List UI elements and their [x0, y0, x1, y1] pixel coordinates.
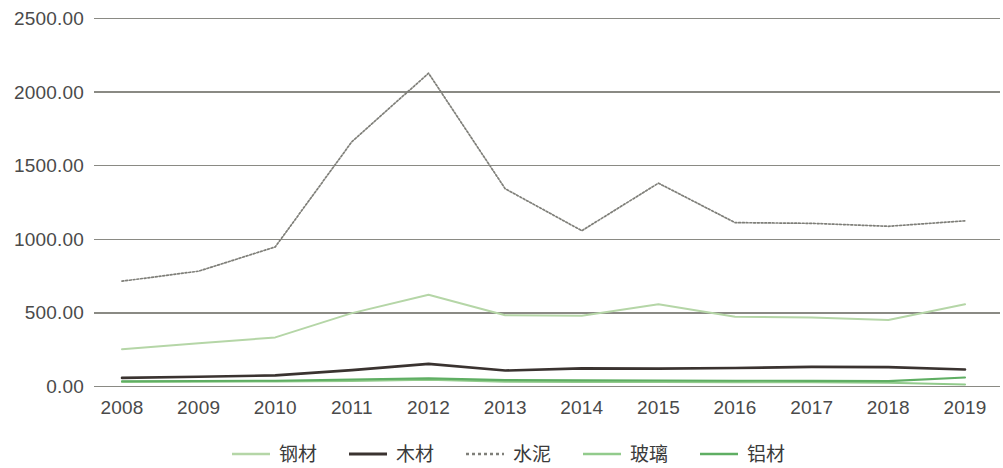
line-chart: 0.00500.001000.001500.002000.002500.00 2… [0, 0, 1003, 468]
x-tick-label: 2014 [560, 397, 603, 418]
y-tick-label: 2500.00 [14, 8, 84, 29]
series-line [122, 73, 965, 281]
legend-item[interactable]: 钢材 [232, 443, 317, 465]
y-tick-label: 1000.00 [14, 229, 84, 250]
x-tick-label: 2012 [407, 397, 450, 418]
y-tick-label: 2000.00 [14, 82, 84, 103]
y-tick-label: 500.00 [25, 302, 84, 323]
y-axis-labels: 0.00500.001000.001500.002000.002500.00 [14, 8, 84, 397]
x-tick-label: 2009 [177, 397, 220, 418]
series-lines [122, 73, 965, 384]
x-tick-label: 2013 [484, 397, 527, 418]
x-tick-label: 2011 [331, 397, 373, 418]
x-axis-labels: 2008200920102011201220132014201520162017… [100, 397, 986, 418]
x-tick-label: 2019 [943, 397, 986, 418]
legend-label: 钢材 [279, 443, 317, 465]
chart-legend: 钢材木材水泥玻璃铝材 [232, 443, 785, 465]
legend-item[interactable]: 玻璃 [583, 443, 668, 465]
x-tick-label: 2017 [790, 397, 833, 418]
series-line [122, 364, 965, 378]
legend-item[interactable]: 水泥 [466, 443, 551, 465]
chart-canvas: 0.00500.001000.001500.002000.002500.00 2… [0, 0, 1003, 468]
legend-item[interactable]: 木材 [349, 443, 434, 465]
x-tick-label: 2018 [867, 397, 910, 418]
series-line [122, 377, 965, 381]
y-tick-label: 0.00 [46, 376, 84, 397]
y-tick-label: 1500.00 [14, 155, 84, 176]
legend-label: 木材 [396, 443, 434, 465]
legend-label: 铝材 [747, 443, 785, 465]
x-tick-label: 2010 [254, 397, 297, 418]
x-tick-label: 2015 [637, 397, 680, 418]
legend-label: 水泥 [513, 443, 551, 465]
legend-item[interactable]: 铝材 [700, 443, 785, 465]
gridlines [94, 19, 1000, 387]
legend-label: 玻璃 [630, 443, 668, 465]
series-line [122, 295, 965, 349]
x-tick-label: 2016 [714, 397, 757, 418]
x-tick-label: 2008 [100, 397, 143, 418]
